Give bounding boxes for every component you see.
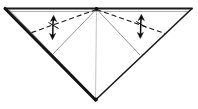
apex-vertex-dot (95, 7, 99, 11)
origami-diagram-canvas (0, 0, 198, 109)
fold-unfold-arrow-right-shaft (140, 17, 141, 37)
diagram-background (0, 0, 198, 109)
fold-unfold-arrow-left-shaft (53, 18, 54, 38)
bottom-vertex-dot (94, 98, 98, 102)
origami-diagram-figure (0, 0, 198, 109)
